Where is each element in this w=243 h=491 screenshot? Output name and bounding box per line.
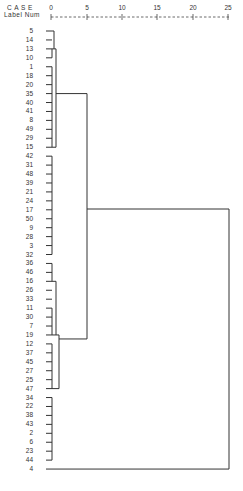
dendrogram-tree (0, 0, 243, 491)
